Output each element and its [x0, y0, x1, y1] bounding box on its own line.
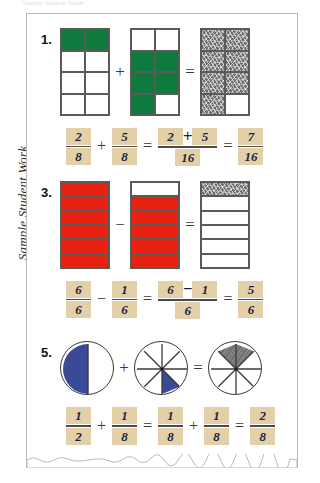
grid-cell [131, 196, 179, 210]
denominator: 8 [66, 148, 91, 165]
operator-equals: = [180, 215, 200, 235]
equation-equals-2: = [218, 290, 237, 308]
equation-op-1: + [92, 417, 111, 435]
fraction-combined: 2 + 5 16 [158, 127, 217, 166]
equation-op-1: + [92, 137, 111, 155]
grid-cell [201, 182, 249, 196]
denominator: 8 [204, 428, 229, 445]
grid-cell [201, 29, 225, 51]
grid-cell [85, 29, 109, 51]
grid-cell [85, 94, 109, 116]
numerator-right: 1 [192, 281, 217, 298]
equation-equals-1: = [138, 137, 157, 155]
numerator: 1 [112, 281, 137, 298]
fraction-result: 7 16 [238, 128, 263, 166]
problem-1: 1. + [27, 24, 299, 174]
grid-second-addend [130, 28, 180, 116]
operator-plus: + [110, 62, 130, 82]
grid-cell [61, 72, 85, 94]
grid-cell [201, 51, 225, 73]
grid-cell [61, 182, 109, 196]
numerator: 1 [66, 407, 91, 424]
fraction-b: 1 6 [112, 281, 137, 319]
fraction-a: 2 8 [66, 128, 91, 166]
grid-sum [200, 28, 250, 116]
denominator: 16 [175, 149, 200, 166]
worksheet-card: 1. + [26, 13, 298, 468]
operator-minus: − [110, 215, 130, 235]
fraction-b: 1 8 [112, 407, 137, 445]
fraction-bar [112, 299, 137, 301]
circle-first-addend [60, 341, 114, 395]
operator-equals: = [188, 358, 208, 378]
fraction-bar [238, 299, 263, 301]
numerator: 2 [66, 128, 91, 145]
fraction-bar [204, 425, 229, 427]
grid-subtrahend [130, 181, 180, 269]
numerator-left: 2 [158, 128, 183, 145]
grid-cell [61, 211, 109, 225]
grid-cell [61, 94, 85, 116]
numerator: 2 [250, 407, 275, 424]
grid-cell [131, 239, 179, 253]
grid-cell [131, 225, 179, 239]
problem-1-figures: + = [60, 28, 250, 116]
grid-minuend [60, 181, 110, 269]
numerator: 1 [158, 407, 183, 424]
equation-op-1: − [92, 290, 111, 308]
denominator: 6 [66, 301, 91, 318]
circle-second-addend [134, 341, 188, 395]
numerator-op: − [183, 280, 192, 298]
top-cut-caption: Sample Student Work [22, 0, 142, 7]
equation-equals-2: = [218, 137, 237, 155]
grid-cell [61, 51, 85, 73]
fraction-bar [112, 425, 137, 427]
fraction-bar [250, 425, 275, 427]
numerator-op: + [183, 127, 192, 145]
problem-5-figures: + = [60, 341, 262, 395]
fraction-bar [112, 146, 137, 148]
grid-difference [200, 181, 250, 269]
fraction-bar [66, 146, 91, 148]
numerator-left: 6 [158, 281, 183, 298]
grid-cell [201, 225, 249, 239]
grid-cell [131, 94, 155, 116]
numerator: 1 [112, 407, 137, 424]
numerator: 1 [204, 407, 229, 424]
grid-cell [201, 211, 249, 225]
grid-cell [61, 29, 85, 51]
combined-numerator: 2 + 5 [158, 127, 217, 145]
grid-cell [131, 182, 179, 196]
numerator: 6 [66, 281, 91, 298]
fraction-result: 2 8 [250, 407, 275, 445]
problem-1-equation: 2 8 + 5 8 = 2 + 5 [65, 127, 264, 166]
grid-cell [131, 72, 155, 94]
denominator: 8 [112, 148, 137, 165]
problem-5-number: 5. [41, 345, 52, 360]
problem-5: 5. + [27, 337, 299, 467]
denominator: 8 [250, 428, 275, 445]
problem-3-equation: 6 6 − 1 6 = 6 − 1 [65, 280, 264, 319]
grid-cell [225, 72, 249, 94]
fraction-a: 1 2 [66, 407, 91, 445]
equation-op-2: + [184, 417, 203, 435]
problem-3: 3. − [27, 177, 299, 332]
denominator: 6 [175, 302, 200, 319]
denominator: 16 [238, 148, 263, 165]
fraction-bar [158, 299, 217, 301]
fraction-a: 6 6 [66, 281, 91, 319]
problem-1-number: 1. [41, 32, 52, 47]
grid-cell [61, 254, 109, 268]
denominator: 6 [238, 301, 263, 318]
fraction-b: 5 8 [112, 128, 137, 166]
grid-cell [155, 51, 179, 73]
grid-cell [131, 254, 179, 268]
fraction-result: 5 6 [238, 281, 263, 319]
grid-cell [131, 29, 155, 51]
numerator: 5 [112, 128, 137, 145]
worksheet-content: 1. + [27, 14, 297, 467]
grid-first-addend [60, 28, 110, 116]
grid-cell [131, 51, 155, 73]
grid-cell [61, 196, 109, 210]
fraction-bar [66, 299, 91, 301]
